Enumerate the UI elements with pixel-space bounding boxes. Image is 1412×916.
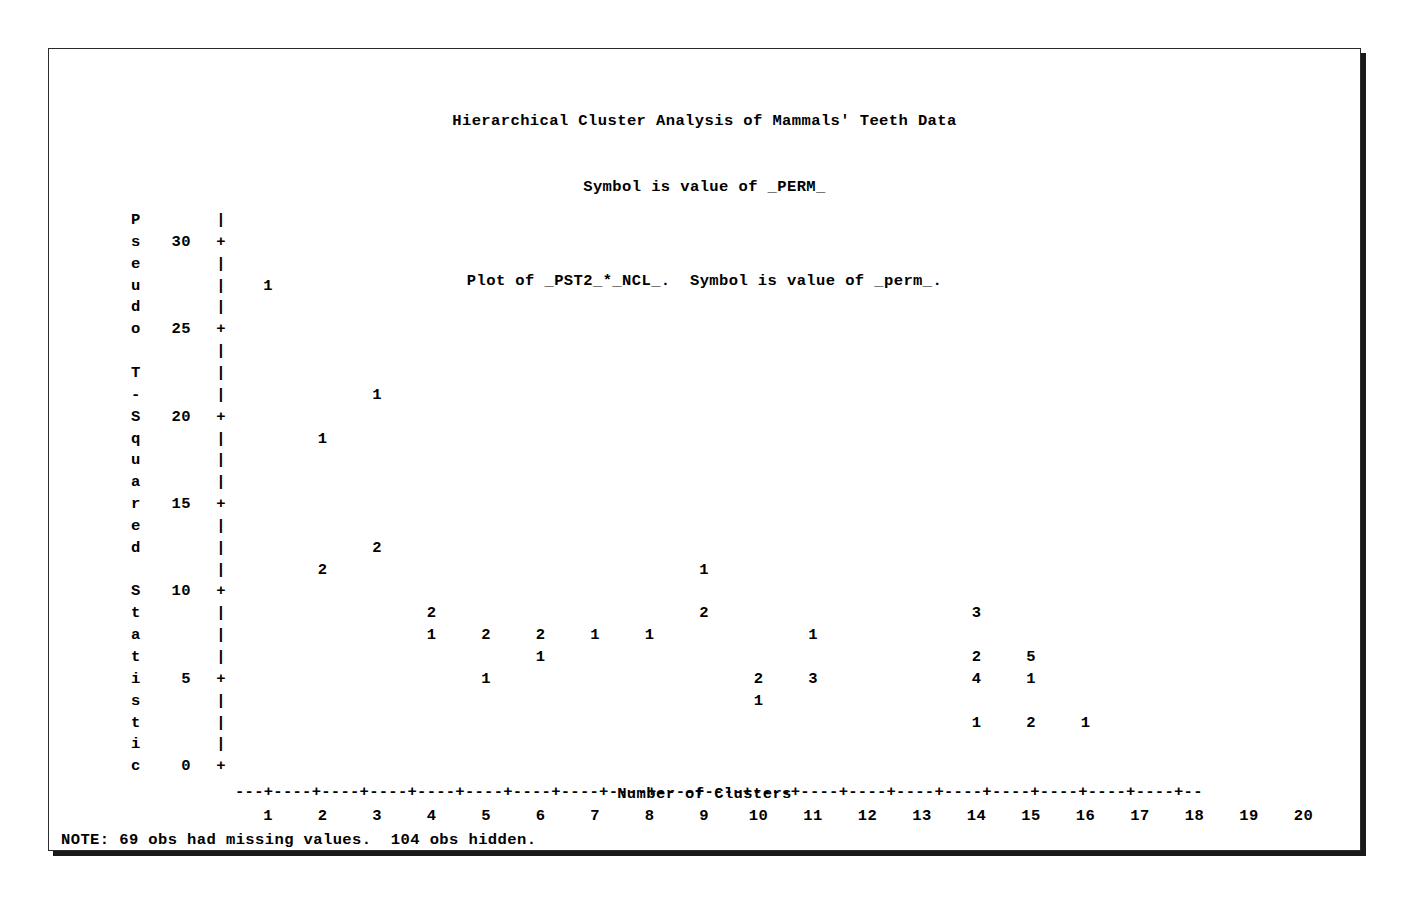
y-axis-label-char: d — [131, 300, 141, 316]
y-axis-label-char: c — [131, 759, 141, 775]
x-axis-tick-label: 12 — [856, 809, 880, 825]
data-point-symbol: 1 — [697, 563, 711, 579]
x-axis-tick-label: 3 — [365, 809, 389, 825]
data-point-symbol: 1 — [970, 716, 984, 732]
x-axis-tick-label: 11 — [801, 809, 825, 825]
y-axis-tick-mark: + — [215, 410, 227, 426]
y-axis-tick-mark: + — [215, 672, 227, 688]
x-axis-tick-label: 17 — [1128, 809, 1152, 825]
y-axis-tick-mark: + — [215, 322, 227, 338]
x-axis-tick-label: 15 — [1019, 809, 1043, 825]
y-axis-label-char: P — [131, 213, 141, 229]
y-axis-tick-label: 25 — [165, 322, 191, 338]
data-point-symbol: 5 — [1024, 650, 1038, 666]
y-axis-label-char: t — [131, 606, 141, 622]
y-axis-rule-mark: | — [215, 366, 227, 382]
x-axis-tick-label: 1 — [256, 809, 280, 825]
plot-canvas: P|s30+e|u|d|o25+|T|-|S20+q|u|a|r15+e|d||… — [49, 161, 1360, 721]
report-page-frame: Hierarchical Cluster Analysis of Mammals… — [48, 48, 1361, 851]
data-point-symbol: 1 — [588, 628, 602, 644]
data-point-symbol: 2 — [1024, 716, 1038, 732]
y-axis-rule-mark: | — [215, 475, 227, 491]
y-axis-label-char: T — [131, 366, 141, 382]
data-point-symbol: 2 — [697, 606, 711, 622]
data-point-symbol: 2 — [316, 563, 330, 579]
y-axis-rule-mark: | — [215, 737, 227, 753]
x-axis-tick-label: 6 — [529, 809, 553, 825]
y-axis-rule-mark: | — [215, 694, 227, 710]
x-axis-tick-label: 18 — [1183, 809, 1207, 825]
data-point-symbol: 1 — [261, 279, 275, 295]
data-point-symbol: 1 — [534, 650, 548, 666]
data-point-symbol: 1 — [1024, 672, 1038, 688]
y-axis-label-char: u — [131, 453, 141, 469]
y-axis-rule-mark: | — [215, 279, 227, 295]
data-point-symbol: 2 — [479, 628, 493, 644]
y-axis-label-char: e — [131, 519, 141, 535]
x-axis-tick-label: 16 — [1074, 809, 1098, 825]
y-axis-rule-mark: | — [215, 650, 227, 666]
y-axis-label-char: S — [131, 584, 141, 600]
y-axis-label-char: i — [131, 737, 141, 753]
data-point-symbol: 3 — [970, 606, 984, 622]
x-axis-tick-label: 10 — [747, 809, 771, 825]
data-point-symbol: 3 — [806, 672, 820, 688]
x-axis-tick-label: 2 — [311, 809, 335, 825]
x-axis-tick-label: 8 — [638, 809, 662, 825]
y-axis-rule-mark: | — [215, 541, 227, 557]
y-axis-tick-label: 20 — [165, 410, 191, 426]
data-point-symbol: 1 — [806, 628, 820, 644]
data-point-symbol: 1 — [316, 432, 330, 448]
y-axis-label-char: - — [131, 388, 141, 404]
note-text: NOTE: 69 obs had missing values. 104 obs… — [61, 831, 536, 849]
y-axis-label-char: o — [131, 322, 141, 338]
y-axis-rule-mark: | — [215, 388, 227, 404]
x-axis-tick-label: 7 — [583, 809, 607, 825]
y-axis-rule-mark: | — [215, 257, 227, 273]
y-axis-tick-label: 15 — [165, 497, 191, 513]
y-axis-label-char: u — [131, 279, 141, 295]
x-axis-title: Number of Clusters — [49, 785, 1360, 803]
y-axis-rule-mark: | — [215, 628, 227, 644]
y-axis-label-char: t — [131, 716, 141, 732]
data-point-symbol: 1 — [643, 628, 657, 644]
y-axis-label-char: s — [131, 235, 141, 251]
y-axis-rule-mark: | — [215, 432, 227, 448]
data-point-symbol: 2 — [752, 672, 766, 688]
x-axis-tick-label: 20 — [1292, 809, 1316, 825]
y-axis-rule-mark: | — [215, 716, 227, 732]
x-axis-tick-label: 13 — [910, 809, 934, 825]
report-title-line1: Hierarchical Cluster Analysis of Mammals… — [49, 110, 1360, 132]
x-axis-tick-label: 9 — [692, 809, 716, 825]
data-point-symbol: 1 — [752, 694, 766, 710]
y-axis-rule-mark: | — [215, 606, 227, 622]
y-axis-rule-mark: | — [215, 519, 227, 535]
data-point-symbol: 1 — [1079, 716, 1093, 732]
y-axis-label-char: a — [131, 628, 141, 644]
y-axis-tick-mark: + — [215, 235, 227, 251]
y-axis-label-char: a — [131, 475, 141, 491]
y-axis-label-char: r — [131, 497, 141, 513]
data-point-symbol: 2 — [425, 606, 439, 622]
x-axis-tick-label: 5 — [474, 809, 498, 825]
y-axis-label-char: s — [131, 694, 141, 710]
y-axis-label-char: S — [131, 410, 141, 426]
data-point-symbol: 2 — [370, 541, 384, 557]
y-axis-label-char: q — [131, 432, 141, 448]
y-axis-rule-mark: | — [215, 344, 227, 360]
y-axis-tick-label: 10 — [165, 584, 191, 600]
y-axis-label-char: d — [131, 541, 141, 557]
data-point-symbol: 1 — [425, 628, 439, 644]
y-axis-tick-label: 30 — [165, 235, 191, 251]
y-axis-tick-label: 5 — [165, 672, 191, 688]
y-axis-tick-mark: + — [215, 584, 227, 600]
data-point-symbol: 4 — [970, 672, 984, 688]
y-axis-rule-mark: | — [215, 453, 227, 469]
y-axis-label-char: e — [131, 257, 141, 273]
y-axis-tick-label: 0 — [165, 759, 191, 775]
y-axis-tick-mark: + — [215, 497, 227, 513]
y-axis-rule-mark: | — [215, 563, 227, 579]
y-axis-label-char: i — [131, 672, 141, 688]
data-point-symbol: 1 — [479, 672, 493, 688]
data-point-symbol: 2 — [970, 650, 984, 666]
